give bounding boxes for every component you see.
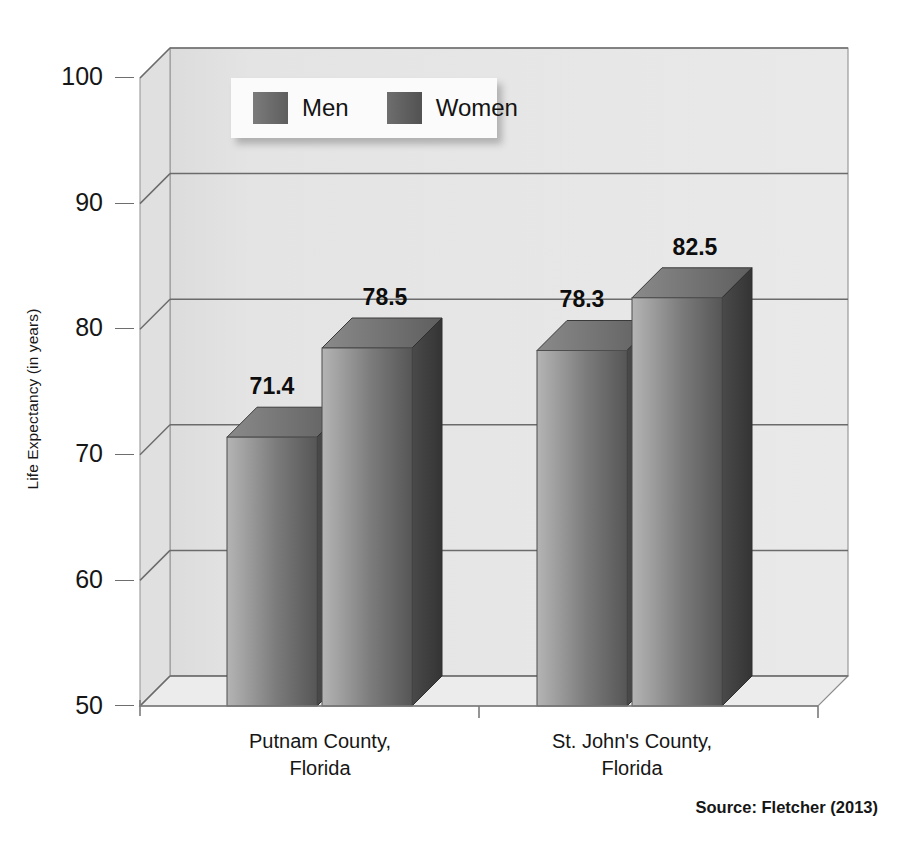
y-tick-label-50: 50 [41, 693, 103, 718]
legend-entry-men[interactable]: Men [253, 92, 349, 124]
y-tick-dash-80 [115, 328, 134, 329]
category-label-putnam: Putnam County, Florida [155, 728, 485, 782]
legend-entry-women[interactable]: Women [387, 92, 518, 124]
category-label-stjohns: St. John's County, Florida [467, 728, 797, 782]
bar-value-stjohns-men: 78.3 [527, 288, 637, 311]
y-tick-label-60: 60 [41, 567, 103, 592]
legend-swatch-women [387, 92, 422, 124]
legend-label-men: Men [302, 96, 349, 120]
bar-putnam-women[interactable] [322, 318, 442, 706]
y-tick-label-80: 80 [41, 315, 103, 340]
bar-value-putnam-men: 71.4 [217, 375, 327, 398]
y-tick-label-90: 90 [41, 190, 103, 215]
y-tick-dash-90 [115, 203, 134, 204]
y-tick-dash-100 [115, 77, 134, 78]
y-tick-dash-60 [115, 580, 134, 581]
legend: Men Women [231, 78, 497, 138]
bar-value-stjohns-women: 82.5 [640, 236, 750, 259]
plot-left-wall [140, 48, 170, 706]
bar-stjohns-women[interactable] [632, 268, 752, 706]
legend-swatch-men [253, 92, 288, 124]
category-label-putnam-line1: Putnam County, [155, 728, 485, 755]
y-tick-dash-50 [115, 705, 134, 706]
source-note: Source: Fletcher (2013) [696, 798, 878, 817]
y-tick-label-100: 100 [41, 64, 103, 89]
legend-label-women: Women [436, 96, 518, 120]
category-label-stjohns-line1: St. John's County, [467, 728, 797, 755]
category-label-putnam-line2: Florida [155, 755, 485, 782]
y-axis-title: Life Expectancy (in years) [24, 249, 42, 549]
y-tick-dash-70 [115, 454, 134, 455]
bar-chart: Life Expectancy (in years) 100 90 80 70 … [0, 0, 897, 848]
bar-value-putnam-women: 78.5 [330, 286, 440, 309]
y-tick-label-70: 70 [41, 441, 103, 466]
category-label-stjohns-line2: Florida [467, 755, 797, 782]
